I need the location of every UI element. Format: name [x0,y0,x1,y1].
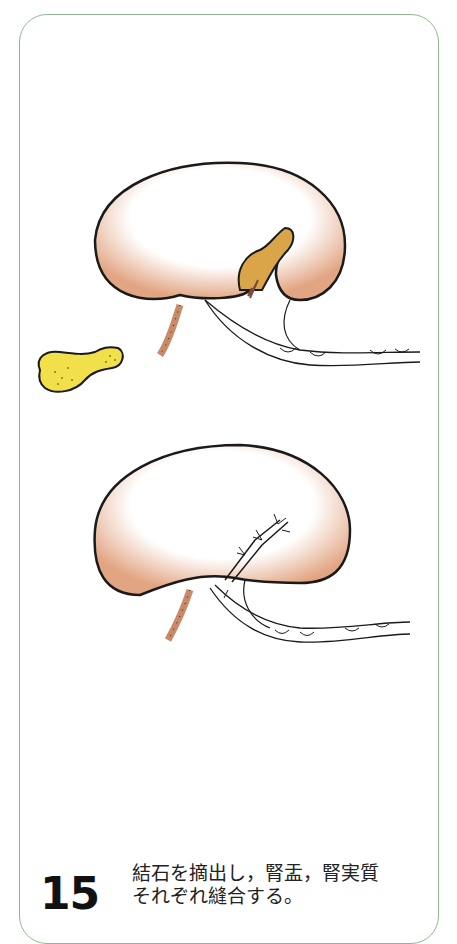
kidney-bottom-panel [95,445,410,642]
kidney-top-panel [95,163,420,366]
caption-line-2: それぞれ縫合する。 [132,885,452,908]
caption-line-1: 結石を摘出し，腎盂，腎実質 [132,862,452,885]
figure-caption: 15 結石を摘出し，腎盂，腎実質 それぞれ縫合する。 [40,860,450,920]
step-number: 15 [40,872,99,916]
renal-stone [39,347,123,392]
caption-text: 結石を摘出し，腎盂，腎実質 それぞれ縫合する。 [132,862,452,908]
